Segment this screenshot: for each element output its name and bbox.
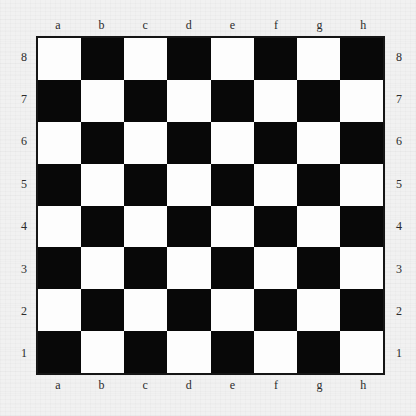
square-g8[interactable] bbox=[297, 38, 340, 80]
rank-labels-right: 8 7 6 5 4 3 2 1 bbox=[389, 36, 409, 375]
rank-label-right-1: 1 bbox=[389, 333, 409, 375]
file-labels-top: a b c d e f g h bbox=[36, 16, 385, 34]
square-c1[interactable] bbox=[124, 331, 167, 373]
square-a7[interactable] bbox=[38, 80, 81, 122]
square-f3[interactable] bbox=[254, 247, 297, 289]
square-h2[interactable] bbox=[340, 289, 383, 331]
rank-label-left-1: 1 bbox=[14, 333, 34, 375]
square-f5[interactable] bbox=[254, 164, 297, 206]
square-h7[interactable] bbox=[340, 80, 383, 122]
file-label-d: d bbox=[167, 16, 211, 34]
square-c3[interactable] bbox=[124, 247, 167, 289]
square-g7[interactable] bbox=[297, 80, 340, 122]
square-h5[interactable] bbox=[340, 164, 383, 206]
square-b6[interactable] bbox=[81, 122, 124, 164]
square-h6[interactable] bbox=[340, 122, 383, 164]
rank-label-right-6: 6 bbox=[389, 121, 409, 163]
rank-label-right-2: 2 bbox=[389, 290, 409, 332]
square-h3[interactable] bbox=[340, 247, 383, 289]
rank-label-left-6: 6 bbox=[14, 121, 34, 163]
rank-label-right-7: 7 bbox=[389, 78, 409, 120]
square-d1[interactable] bbox=[167, 331, 210, 373]
square-g3[interactable] bbox=[297, 247, 340, 289]
square-a6[interactable] bbox=[38, 122, 81, 164]
file-label-bottom-f: f bbox=[254, 376, 298, 394]
file-label-bottom-d: d bbox=[167, 376, 211, 394]
file-label-bottom-h: h bbox=[341, 376, 385, 394]
file-label-bottom-a: a bbox=[36, 376, 80, 394]
square-h1[interactable] bbox=[340, 331, 383, 373]
square-f1[interactable] bbox=[254, 331, 297, 373]
rank-label-left-4: 4 bbox=[14, 206, 34, 248]
square-c8[interactable] bbox=[124, 38, 167, 80]
square-g1[interactable] bbox=[297, 331, 340, 373]
rank-label-left-3: 3 bbox=[14, 248, 34, 290]
square-b2[interactable] bbox=[81, 289, 124, 331]
square-e2[interactable] bbox=[211, 289, 254, 331]
square-d8[interactable] bbox=[167, 38, 210, 80]
rank-labels-left: 8 7 6 5 4 3 2 1 bbox=[14, 36, 34, 375]
square-b4[interactable] bbox=[81, 206, 124, 248]
square-c5[interactable] bbox=[124, 164, 167, 206]
rank-label-left-7: 7 bbox=[14, 78, 34, 120]
square-d6[interactable] bbox=[167, 122, 210, 164]
square-f2[interactable] bbox=[254, 289, 297, 331]
rank-label-left-8: 8 bbox=[14, 36, 34, 78]
square-b5[interactable] bbox=[81, 164, 124, 206]
file-label-e: e bbox=[211, 16, 255, 34]
square-a4[interactable] bbox=[38, 206, 81, 248]
square-a1[interactable] bbox=[38, 331, 81, 373]
square-g5[interactable] bbox=[297, 164, 340, 206]
square-e1[interactable] bbox=[211, 331, 254, 373]
square-a2[interactable] bbox=[38, 289, 81, 331]
square-e8[interactable] bbox=[211, 38, 254, 80]
square-a5[interactable] bbox=[38, 164, 81, 206]
square-b3[interactable] bbox=[81, 247, 124, 289]
square-b7[interactable] bbox=[81, 80, 124, 122]
file-label-a: a bbox=[36, 16, 80, 34]
rank-label-left-5: 5 bbox=[14, 163, 34, 205]
square-d7[interactable] bbox=[167, 80, 210, 122]
square-d5[interactable] bbox=[167, 164, 210, 206]
square-h4[interactable] bbox=[340, 206, 383, 248]
file-label-f: f bbox=[254, 16, 298, 34]
rank-label-right-4: 4 bbox=[389, 206, 409, 248]
square-d3[interactable] bbox=[167, 247, 210, 289]
square-e4[interactable] bbox=[211, 206, 254, 248]
file-label-h: h bbox=[341, 16, 385, 34]
file-label-bottom-g: g bbox=[298, 376, 342, 394]
file-label-bottom-c: c bbox=[123, 376, 167, 394]
file-label-bottom-e: e bbox=[211, 376, 255, 394]
square-d4[interactable] bbox=[167, 206, 210, 248]
square-c6[interactable] bbox=[124, 122, 167, 164]
square-d2[interactable] bbox=[167, 289, 210, 331]
square-c7[interactable] bbox=[124, 80, 167, 122]
square-a3[interactable] bbox=[38, 247, 81, 289]
square-g6[interactable] bbox=[297, 122, 340, 164]
chessboard-grid[interactable] bbox=[36, 36, 385, 375]
square-g4[interactable] bbox=[297, 206, 340, 248]
file-label-b: b bbox=[80, 16, 124, 34]
file-label-bottom-b: b bbox=[80, 376, 124, 394]
square-f4[interactable] bbox=[254, 206, 297, 248]
square-f8[interactable] bbox=[254, 38, 297, 80]
square-g2[interactable] bbox=[297, 289, 340, 331]
file-label-c: c bbox=[123, 16, 167, 34]
square-e3[interactable] bbox=[211, 247, 254, 289]
square-f6[interactable] bbox=[254, 122, 297, 164]
square-e5[interactable] bbox=[211, 164, 254, 206]
square-e7[interactable] bbox=[211, 80, 254, 122]
square-c2[interactable] bbox=[124, 289, 167, 331]
rank-label-left-2: 2 bbox=[14, 290, 34, 332]
square-h8[interactable] bbox=[340, 38, 383, 80]
square-b1[interactable] bbox=[81, 331, 124, 373]
square-f7[interactable] bbox=[254, 80, 297, 122]
square-c4[interactable] bbox=[124, 206, 167, 248]
square-e6[interactable] bbox=[211, 122, 254, 164]
rank-label-right-3: 3 bbox=[389, 248, 409, 290]
file-labels-bottom: a b c d e f g h bbox=[36, 376, 385, 394]
chessboard-page: a b c d e f g h 8 7 6 5 4 3 2 1 bbox=[0, 0, 416, 416]
square-a8[interactable] bbox=[38, 38, 81, 80]
file-label-g: g bbox=[298, 16, 342, 34]
square-b8[interactable] bbox=[81, 38, 124, 80]
